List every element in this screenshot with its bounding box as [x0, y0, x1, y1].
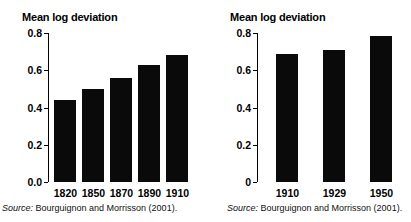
- bar-1870: [110, 78, 132, 182]
- bar-1929: [323, 50, 345, 182]
- chart-panel-left: Mean log deviation 0.8 0.6 0.4 0.2 0.0 1…: [0, 0, 205, 222]
- bar-slot-1910-right: 1910: [276, 33, 298, 182]
- y-tick-0.8-right: [253, 33, 258, 34]
- x-label-1890: 1890: [138, 187, 161, 199]
- bar-slot-1929: 1929: [323, 33, 345, 182]
- bar-slot-1820: 1820: [54, 33, 76, 182]
- bar-slot-1870: 1870: [110, 33, 132, 182]
- y-tick-label-0-right: 0: [245, 177, 251, 188]
- y-tick-0.2: [44, 145, 49, 146]
- x-label-1910: 1910: [166, 187, 189, 199]
- bar-slot-1850: 1850: [82, 33, 104, 182]
- chart-title-right: Mean log deviation: [230, 11, 325, 23]
- y-tick-0.2-right: [253, 145, 258, 146]
- bar-1910: [166, 55, 188, 182]
- source-caption-left: Source: Bourguignon and Morrisson (2001)…: [2, 203, 177, 213]
- chart-title-left: Mean log deviation: [22, 11, 117, 23]
- plot-area-right: 0.8 0.6 0.4 0.2 0 1910 1929 1950: [257, 33, 409, 182]
- y-tick-0.6-right: [253, 70, 258, 71]
- plot-area-left: 0.8 0.6 0.4 0.2 0.0 1820 1850 1870: [48, 33, 198, 182]
- bar-1950: [370, 36, 392, 182]
- bar-slot-1910: 1910: [166, 33, 188, 182]
- y-tick-label-0.6: 0.6: [27, 65, 42, 76]
- x-label-1910-right: 1910: [276, 187, 299, 199]
- source-text-left: Bourguignon and Morrisson (2001).: [36, 203, 178, 213]
- y-tick-0-right: [253, 182, 258, 183]
- y-tick-label-0.6-right: 0.6: [236, 65, 251, 76]
- x-label-1850: 1850: [82, 187, 105, 199]
- source-text-right: Bourguignon and Morrisson (2001).: [261, 203, 403, 213]
- y-tick-0.4-right: [253, 108, 258, 109]
- y-tick-label-0.2-right: 0.2: [236, 140, 251, 151]
- bar-group-right: 1910 1929 1950: [258, 33, 408, 182]
- x-label-1870: 1870: [110, 187, 133, 199]
- y-tick-0.0: [44, 182, 49, 183]
- x-label-1950: 1950: [370, 187, 393, 199]
- bar-1910-right: [276, 54, 298, 183]
- x-label-1929: 1929: [323, 187, 346, 199]
- bar-slot-1950: 1950: [370, 33, 392, 182]
- chart-panel-right: Mean log deviation 0.8 0.6 0.4 0.2 0 191…: [205, 0, 411, 222]
- y-tick-0.6: [44, 70, 49, 71]
- bar-1850: [82, 89, 104, 182]
- bar-1820: [54, 100, 76, 182]
- x-label-1820: 1820: [54, 187, 77, 199]
- y-tick-label-0.4-right: 0.4: [236, 102, 251, 113]
- source-prefix-right: Source:: [227, 203, 258, 213]
- y-tick-label-0.4: 0.4: [27, 102, 42, 113]
- source-caption-right: Source: Bourguignon and Morrisson (2001)…: [227, 203, 402, 213]
- y-tick-0.8: [44, 33, 49, 34]
- bar-slot-1890: 1890: [138, 33, 160, 182]
- y-tick-label-0.8: 0.8: [27, 28, 42, 39]
- source-prefix-left: Source:: [2, 203, 33, 213]
- y-tick-0.4: [44, 108, 49, 109]
- bar-group-left: 1820 1850 1870 1890 1910: [49, 33, 197, 182]
- y-tick-label-0.2: 0.2: [27, 140, 42, 151]
- y-tick-label-0.0: 0.0: [27, 177, 42, 188]
- bar-1890: [138, 65, 160, 182]
- y-tick-label-0.8-right: 0.8: [236, 28, 251, 39]
